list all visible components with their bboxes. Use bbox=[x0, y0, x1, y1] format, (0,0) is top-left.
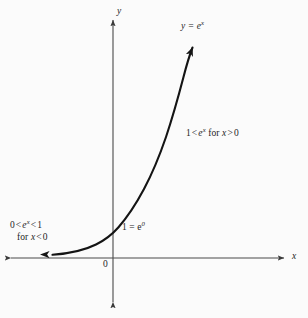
positive-domain-annotation: 1<ex for x>0 bbox=[186, 128, 239, 140]
y-axis-label: y bbox=[117, 6, 121, 16]
curve-equation-label: y = ex bbox=[181, 21, 204, 33]
curve-equation-exponent: x bbox=[201, 19, 204, 26]
intercept-base: 1 = e bbox=[122, 222, 142, 232]
right-exponent: x bbox=[203, 126, 206, 133]
curve-left-arrowhead bbox=[40, 251, 50, 258]
right-post: 0 bbox=[234, 128, 239, 138]
left-operator-3: < bbox=[35, 232, 42, 242]
left-line-2: for x<0 bbox=[10, 232, 48, 244]
plot-canvas bbox=[0, 0, 308, 318]
left-for: for bbox=[17, 232, 28, 242]
left-line2-post: 0 bbox=[43, 232, 48, 242]
intercept-exponent: 0 bbox=[142, 220, 145, 227]
left-post: 1 bbox=[37, 220, 42, 230]
x-axis-label: x bbox=[292, 251, 296, 261]
y-intercept-annotation: 1 = e0 bbox=[122, 222, 145, 234]
right-mid: for bbox=[208, 128, 219, 138]
negative-domain-annotation: 0<ex<1 for x<0 bbox=[10, 220, 48, 243]
exponential-function-figure: y x 0 y = ex 1<ex for x>0 0<ex<1 for x<0… bbox=[0, 0, 308, 318]
curve-equation-base: y = e bbox=[181, 21, 201, 31]
origin-label: 0 bbox=[103, 259, 108, 269]
right-operator-2: > bbox=[226, 128, 233, 138]
left-line-1: 0<ex<1 bbox=[10, 220, 42, 230]
